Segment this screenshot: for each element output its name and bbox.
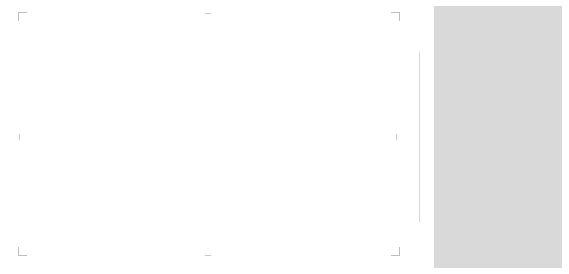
visualizations-field-pane[interactable] xyxy=(434,6,562,268)
selection-handle-top-left[interactable] xyxy=(18,12,27,21)
selection-handle-left[interactable] xyxy=(19,134,20,140)
selection-handle-right[interactable] xyxy=(396,134,397,140)
selection-handle-top-right[interactable] xyxy=(391,12,400,21)
selection-handle-bottom-right[interactable] xyxy=(391,247,400,256)
selection-handle-bottom[interactable] xyxy=(205,255,211,256)
pane-divider xyxy=(419,52,420,222)
legend[interactable] xyxy=(338,38,351,40)
report-canvas[interactable] xyxy=(0,0,420,274)
scatter-plot-area[interactable] xyxy=(60,42,315,214)
selection-handle-bottom-left[interactable] xyxy=(18,247,27,256)
selection-handle-top[interactable] xyxy=(205,13,211,14)
